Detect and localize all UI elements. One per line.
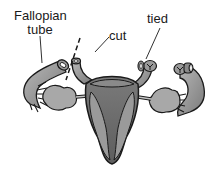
cut-leader-line [95, 37, 109, 52]
cut-label: cut [109, 29, 126, 43]
fallopian-tube-leader-line [40, 36, 42, 63]
left-tube-stump [72, 58, 93, 84]
uterus [86, 77, 139, 165]
tied-label: tied [147, 12, 168, 26]
right-ovary [138, 88, 180, 113]
fallopian-tube-label-line2: tube [14, 23, 66, 37]
fallopian-tube-label-line1: Fallopian [14, 9, 66, 23]
fallopian-tube-label: Fallopian tube [14, 9, 66, 37]
left-ovary [43, 85, 88, 110]
tied-leader-line [146, 28, 160, 59]
tubal-ligation-diagram: Fallopian tube cut tied [0, 0, 218, 170]
